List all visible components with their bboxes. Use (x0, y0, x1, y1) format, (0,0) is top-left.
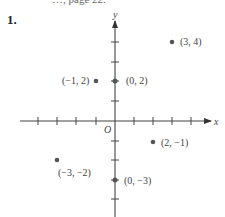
point-label: (−3, −2) (58, 167, 91, 179)
point-label: (3, 4) (180, 36, 202, 48)
point-label: (−1, 2) (62, 75, 89, 87)
point-label: (0, −3) (124, 175, 151, 187)
point-2-neg1 (151, 140, 156, 145)
point-0-neg3 (113, 178, 118, 183)
x-axis-label: x (213, 116, 219, 127)
origin-label: O (104, 124, 111, 135)
point-neg3-neg2 (55, 158, 60, 163)
point-0-2 (113, 79, 118, 84)
point-label: (2, −1) (161, 137, 188, 149)
point-3-4 (170, 40, 175, 45)
y-axis-label: y (112, 9, 118, 20)
point-label: (0, 2) (126, 75, 148, 87)
coordinate-plane: x y O (3, 4) (−1, 2) (0, 2) (2, −1) (−3,… (0, 0, 225, 217)
point-neg1-2 (94, 79, 99, 84)
